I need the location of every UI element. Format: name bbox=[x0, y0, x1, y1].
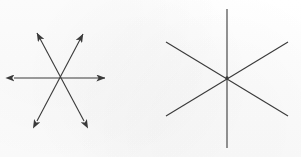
center-dot bbox=[225, 76, 228, 79]
vector-star-diagram bbox=[14, 33, 105, 121]
plain-star-diagram bbox=[166, 9, 288, 148]
figure-canvas bbox=[0, 0, 301, 157]
star-diagrams-svg bbox=[0, 0, 301, 157]
